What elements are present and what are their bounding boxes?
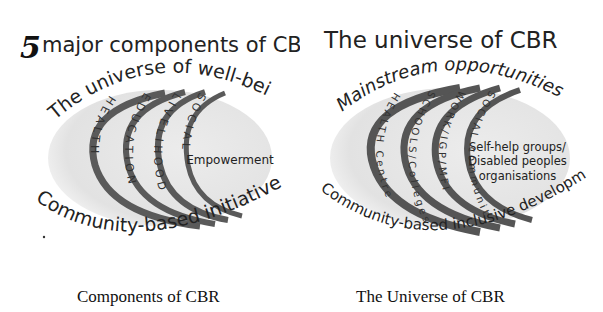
title-text: The universe of CBR [323,27,558,53]
stray-dot [43,236,45,238]
caption-components: Components of CBR [77,287,220,307]
universe-of-cbr-panel: The universe of CBR HEALTH Centre SCHOOL… [300,0,603,312]
title-number: 5 [20,30,41,65]
core-label-empowerment: Empowerment [185,153,275,168]
core-label-line-2: Disabled peoples [460,154,575,168]
components-of-cbr-panel: 5 major components of CBR HEALTH EDUCATI… [0,0,300,312]
caption-universe: The Universe of CBR [356,287,505,307]
core-label-self-help-groups: Self-help groups/ Disabled peoples organ… [460,140,575,183]
title-text: major components of CBR [42,33,300,57]
core-label-line-1: Self-help groups/ [460,140,575,154]
core-label-line-3: organisations [460,169,575,183]
